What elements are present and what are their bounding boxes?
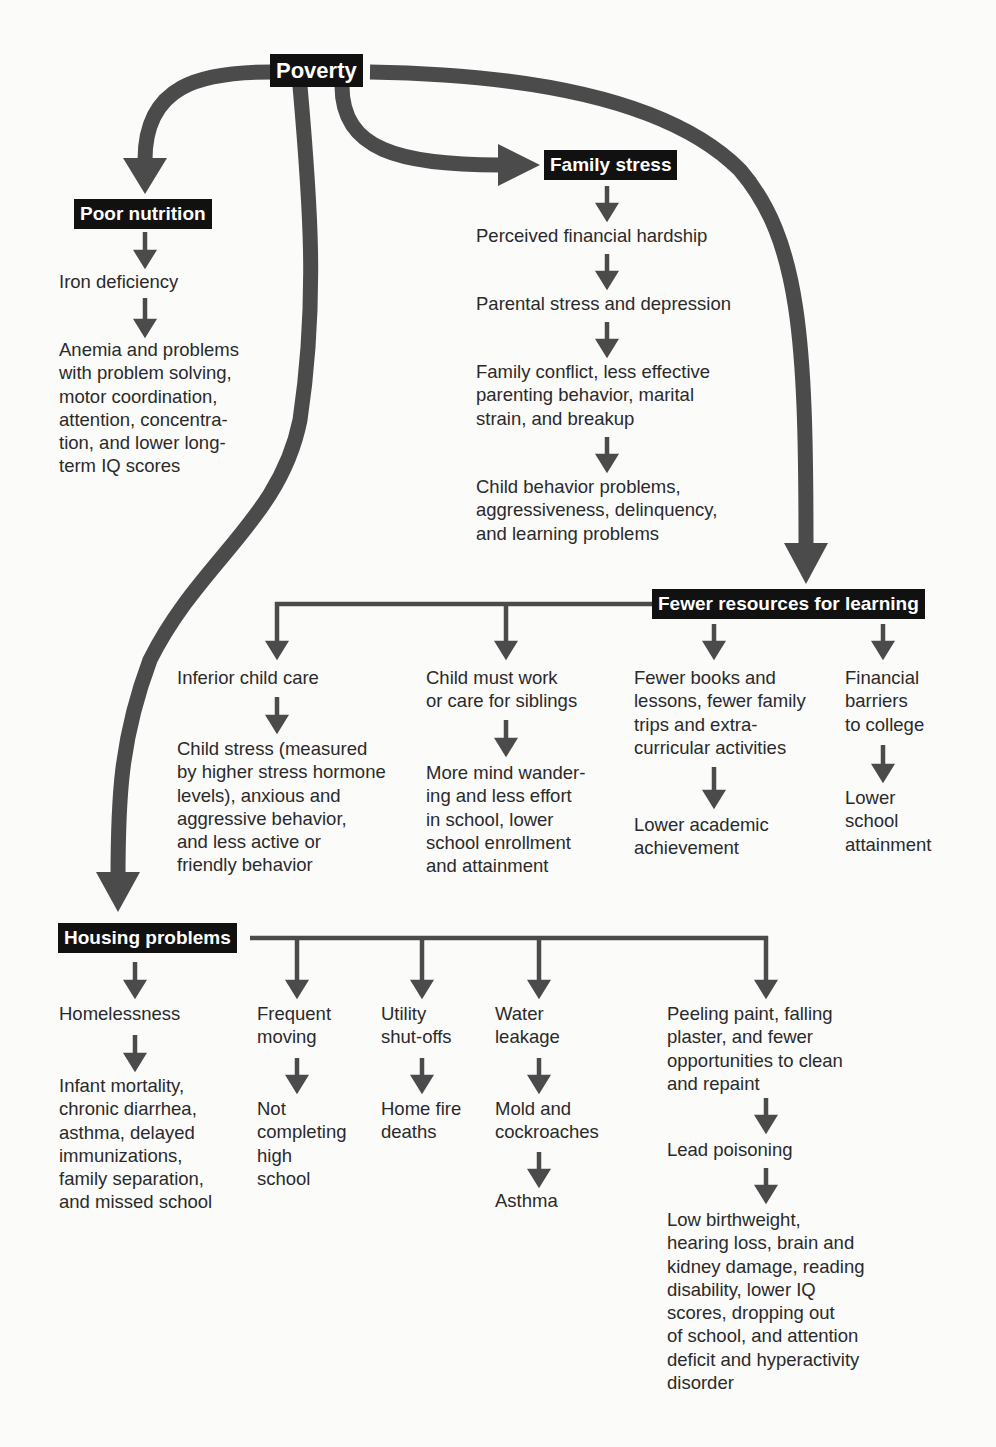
- node-fewer-resources: Fewer resources for learning: [652, 589, 925, 619]
- resources-cause-1: Inferior child care: [177, 666, 319, 689]
- resources-cause-4: Financial barriers to college: [845, 666, 924, 736]
- poor-nutrition-step-2: Anemia and problems with problem solving…: [59, 338, 239, 478]
- family-stress-step-4: Child behavior problems, aggressiveness,…: [476, 475, 717, 545]
- arrow-poverty-to-family-stress: [342, 86, 500, 165]
- resources-cause-2: Child must work or care for siblings: [426, 666, 577, 713]
- housing-1-step-1: Homelessness: [59, 1002, 180, 1025]
- resources-effect-2: More mind wander- ing and less effort in…: [426, 761, 585, 877]
- arrow-poverty-to-nutrition: [145, 72, 272, 160]
- resources-effect-1: Child stress (measured by higher stress …: [177, 737, 386, 877]
- resources-cause-3: Fewer books and lessons, fewer family tr…: [634, 666, 806, 759]
- resources-effect-3: Lower academic achievement: [634, 813, 769, 860]
- housing-2-step-1: Frequent moving: [257, 1002, 331, 1049]
- node-family-stress: Family stress: [544, 150, 677, 180]
- node-housing-problems: Housing problems: [58, 923, 237, 953]
- housing-5-step-3: Low birthweight, hearing loss, brain and…: [667, 1208, 864, 1394]
- housing-5-step-1: Peeling paint, falling plaster, and fewe…: [667, 1002, 843, 1095]
- node-poverty: Poverty: [270, 54, 363, 87]
- housing-3-step-2: Home fire deaths: [381, 1097, 461, 1144]
- resources-effect-4: Lower school attainment: [845, 786, 931, 856]
- arrowhead-resources: [784, 543, 828, 584]
- family-stress-step-3: Family conflict, less effective parentin…: [476, 360, 710, 430]
- housing-4-step-3: Asthma: [495, 1189, 558, 1212]
- arrowhead-nutrition: [123, 158, 167, 194]
- housing-4-step-1: Water leakage: [495, 1002, 560, 1049]
- arrowhead-housing: [96, 872, 140, 912]
- housing-3-step-1: Utility shut-offs: [381, 1002, 452, 1049]
- arrowhead-family-stress: [498, 144, 540, 186]
- housing-2-step-2: Not completing high school: [257, 1097, 346, 1190]
- family-stress-step-1: Perceived financial hardship: [476, 224, 707, 247]
- housing-1-step-2: Infant mortality, chronic diarrhea, asth…: [59, 1074, 212, 1214]
- node-poor-nutrition: Poor nutrition: [74, 199, 212, 229]
- family-stress-step-2: Parental stress and depression: [476, 292, 731, 315]
- housing-4-step-2: Mold and cockroaches: [495, 1097, 599, 1144]
- poor-nutrition-step-1: Iron deficiency: [59, 270, 178, 293]
- housing-5-step-2: Lead poisoning: [667, 1138, 793, 1161]
